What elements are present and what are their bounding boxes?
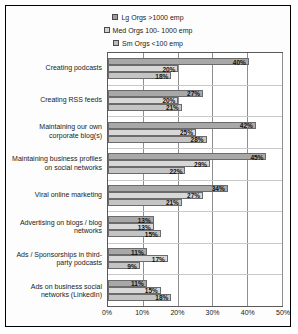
y-axis-label-text: Ads on business social networks (LinkedI… [8, 283, 102, 300]
bar[interactable]: 34% [108, 185, 228, 192]
bar-row: 11% [108, 248, 282, 255]
bar-row: 13% [108, 216, 282, 223]
bar[interactable]: 27% [108, 192, 203, 199]
x-axis-tick-30%: 30% [206, 309, 220, 316]
bar[interactable]: 15% [108, 230, 161, 237]
bar-group: 42%25%28% [108, 116, 282, 148]
x-axis-tick-0%: 0% [102, 309, 112, 316]
bar-value-label: 27% [187, 192, 200, 199]
bar[interactable]: 42% [108, 122, 256, 129]
y-axis-label-text: Creating RSS feeds [40, 96, 102, 105]
bar-value-label: 25% [180, 129, 193, 136]
bar[interactable]: 20% [108, 97, 178, 104]
x-axis-tick-50%: 50% [276, 309, 290, 316]
y-axis-label: Advertising on blogs / blog networks [8, 211, 105, 243]
bar-value-label: 22% [169, 167, 182, 174]
bar-groups: 40%20%18%27%20%21%42%25%28%45%29%22%34%2… [108, 53, 282, 306]
y-axis-label-text: Viral online marketing [35, 191, 102, 200]
bar[interactable]: 21% [108, 104, 182, 111]
bar-row: 21% [108, 199, 282, 206]
bar[interactable]: 25% [108, 129, 196, 136]
bar[interactable]: 13% [108, 223, 154, 230]
plot-area: 40%20%18%27%20%21%42%25%28%45%29%22%34%2… [107, 52, 283, 307]
bar-row: 20% [108, 97, 282, 104]
bar[interactable]: 17% [108, 255, 168, 262]
bar-value-label: 21% [166, 104, 179, 111]
y-axis-label: Maintaining business profiles on social … [8, 148, 105, 180]
x-axis-tick-10%: 10% [135, 309, 149, 316]
gridline-50% [282, 53, 283, 306]
bar-value-label: 42% [240, 122, 253, 129]
bar-value-label: 13% [138, 216, 151, 223]
bar[interactable]: 18% [108, 294, 171, 301]
bar-value-label: 21% [166, 199, 179, 206]
bar-row: 27% [108, 90, 282, 97]
bar[interactable]: 45% [108, 153, 266, 160]
bar-row: 22% [108, 167, 282, 174]
bar-value-label: 34% [212, 185, 225, 192]
bar-group: 40%20%18% [108, 53, 282, 85]
legend-swatch-lg-orgs-icon [112, 14, 118, 20]
bar-row: 21% [108, 104, 282, 111]
bar[interactable]: 9% [108, 262, 140, 269]
bar[interactable]: 11% [108, 280, 147, 287]
bar-row: 27% [108, 192, 282, 199]
y-axis-label: Ads / Sponsorships in third-party podcas… [8, 243, 105, 275]
bar-row: 45% [108, 153, 282, 160]
bar-value-label: 20% [162, 65, 175, 72]
bar-row: 15% [108, 287, 282, 294]
y-axis-label: Ads on business social networks (LinkedI… [8, 275, 105, 307]
bar[interactable]: 40% [108, 58, 249, 65]
bar-value-label: 18% [155, 294, 168, 301]
bar-value-label: 11% [131, 280, 144, 287]
bar-row: 15% [108, 230, 282, 237]
bar-value-label: 45% [250, 153, 263, 160]
bar-row: 13% [108, 223, 282, 230]
bar-row: 11% [108, 280, 282, 287]
bar-value-label: 28% [191, 136, 204, 143]
bar-row: 18% [108, 72, 282, 79]
y-axis-label-text: Advertising on blogs / blog networks [8, 219, 102, 236]
x-axis-tick-20%: 20% [170, 309, 184, 316]
bar[interactable]: 22% [108, 167, 185, 174]
bar-value-label: 15% [145, 230, 158, 237]
bar-value-label: 15% [145, 287, 158, 294]
y-axis-label-text: Maintaining our own corporate blog(s) [8, 123, 102, 140]
bar-value-label: 40% [233, 58, 246, 65]
bar-group: 13%13%15% [108, 211, 282, 243]
bar-group: 11%17%9% [108, 243, 282, 275]
bar-value-label: 27% [187, 90, 200, 97]
legend-swatch-sm-orgs-icon [113, 40, 119, 46]
bar[interactable]: 18% [108, 72, 171, 79]
bar[interactable]: 13% [108, 216, 154, 223]
bar-row: 29% [108, 160, 282, 167]
legend-item-lg-orgs: Lg Orgs >1000 emp [112, 11, 183, 23]
bar-row: 25% [108, 129, 282, 136]
bar-row: 17% [108, 255, 282, 262]
bar-row: 20% [108, 65, 282, 72]
bar[interactable]: 15% [108, 287, 161, 294]
y-axis-label: Creating RSS feeds [8, 84, 105, 116]
legend-label-med-orgs: Med Orgs 100- 1000 emp [113, 26, 193, 35]
bar[interactable]: 20% [108, 65, 178, 72]
bar[interactable]: 21% [108, 199, 182, 206]
chart-legend: Lg Orgs >1000 emp Med Orgs 100- 1000 emp… [6, 11, 290, 49]
chart-frame: Lg Orgs >1000 emp Med Orgs 100- 1000 emp… [5, 5, 291, 327]
y-axis-label: Maintaining our own corporate blog(s) [8, 116, 105, 148]
y-axis-label-text: Ads / Sponsorships in third-party podcas… [8, 251, 102, 268]
bar[interactable]: 27% [108, 90, 203, 97]
bar-group: 45%29%22% [108, 148, 282, 180]
y-axis-category-labels: Creating podcastsCreating RSS feedsMaint… [8, 52, 105, 307]
bar-value-label: 20% [162, 97, 175, 104]
bar[interactable]: 28% [108, 136, 207, 143]
bar-row: 40% [108, 58, 282, 65]
bar-value-label: 13% [138, 223, 151, 230]
bar-value-label: 17% [152, 255, 165, 262]
y-axis-label: Viral online marketing [8, 180, 105, 212]
bar-row: 28% [108, 136, 282, 143]
bar[interactable]: 29% [108, 160, 210, 167]
bar[interactable]: 11% [108, 248, 147, 255]
x-axis-tick-40%: 40% [241, 309, 255, 316]
bar-row: 9% [108, 262, 282, 269]
y-axis-label: Creating podcasts [8, 52, 105, 84]
